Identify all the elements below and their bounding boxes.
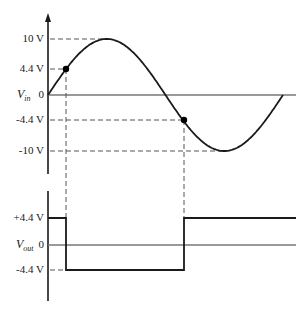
vout-axis-label: Vout: [16, 237, 34, 253]
vout-zero-label: 0: [34, 238, 44, 250]
tick-10v: 10 V: [0, 32, 44, 44]
threshold-dot-falling: [181, 117, 187, 123]
tick-neg4v4: -4.4 V: [0, 113, 44, 125]
vin-axis-arrow-icon: [45, 13, 51, 22]
diagram-canvas: [0, 0, 308, 312]
vin-zero-label: 0: [34, 88, 44, 100]
tick-neg10v: -10 V: [0, 144, 44, 156]
vout-tick-neg4v4: -4.4 V: [0, 263, 44, 275]
vin-axis-label: Vin: [17, 87, 31, 103]
vout-tick-pos4v4: +4.4 V: [0, 211, 44, 223]
tick-4v4: 4.4 V: [0, 62, 44, 74]
threshold-dot-rising: [63, 66, 69, 72]
vout-square-wave: [48, 218, 296, 270]
